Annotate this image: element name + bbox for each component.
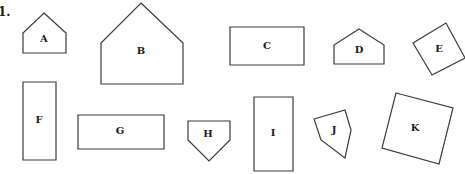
shape-h: H — [188, 121, 230, 161]
shape-label: A — [39, 33, 48, 44]
shape-label: D — [355, 44, 364, 55]
shape-c: C — [230, 27, 304, 65]
shape-label: H — [203, 128, 212, 139]
shape-g: G — [78, 115, 164, 149]
shape-label: F — [35, 114, 42, 125]
shape-b: B — [101, 3, 183, 84]
shape-label: K — [411, 122, 420, 133]
shape-label: C — [263, 40, 271, 51]
shape-i: I — [254, 97, 293, 171]
shape-f: F — [23, 82, 56, 160]
shape-d: D — [334, 29, 384, 64]
shape-label: J — [331, 124, 337, 135]
shape-k: K — [382, 93, 453, 164]
shape-label: B — [137, 45, 145, 56]
shape-label: E — [435, 43, 443, 54]
shapes-canvas: 1. ABCDEFGHIJK — [0, 0, 465, 174]
shape-label: G — [116, 125, 125, 136]
shape-a: A — [23, 13, 66, 53]
shapes-diagram: 1. ABCDEFGHIJK — [0, 0, 465, 174]
shapes-layer: ABCDEFGHIJK — [23, 3, 465, 171]
question-number: 1. — [0, 5, 11, 19]
shape-label: I — [271, 127, 276, 138]
pentagon-outline — [101, 3, 183, 84]
shape-j: J — [314, 110, 351, 158]
shape-e: E — [413, 23, 465, 75]
